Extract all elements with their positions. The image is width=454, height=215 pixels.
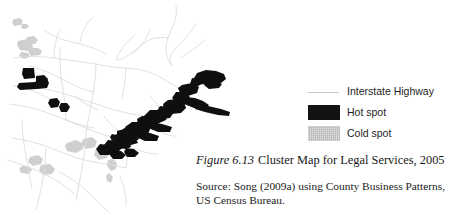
figure-source-note: Source: Song (2009a) using County Busine… — [196, 180, 448, 207]
map-legend: Interstate Highway Hot spot Cold spot — [305, 83, 454, 146]
legend-label-cold-spot: Cold spot — [347, 125, 391, 142]
legend-item-hot-spot: Hot spot — [305, 104, 454, 125]
cold-spot-swatch-icon — [308, 126, 340, 141]
interstate-highway-line-icon — [308, 92, 339, 93]
legend-label-hot-spot: Hot spot — [347, 104, 386, 121]
legend-swatch-wrapper — [305, 104, 341, 125]
figure-title: Cluster Map for Legal Services, 2005 — [254, 153, 445, 167]
hot-spot-swatch-icon — [308, 105, 340, 120]
legend-item-cold-spot: Cold spot — [305, 125, 454, 146]
figure-container: Interstate Highway Hot spot Cold spot Fi… — [0, 0, 454, 215]
legend-label-interstate-highway: Interstate Highway — [347, 83, 434, 100]
figure-caption: Figure 6.13Cluster Map for Legal Service… — [196, 153, 454, 168]
source-line-1: Source: Song (2009a) using County Busine… — [196, 180, 448, 194]
source-line-2: US Census Bureau. — [196, 194, 448, 208]
legend-swatch-wrapper — [305, 125, 341, 146]
legend-swatch-wrapper — [305, 83, 341, 104]
figure-number: Figure 6.13 — [196, 153, 254, 167]
legend-item-interstate-highway: Interstate Highway — [305, 83, 454, 104]
